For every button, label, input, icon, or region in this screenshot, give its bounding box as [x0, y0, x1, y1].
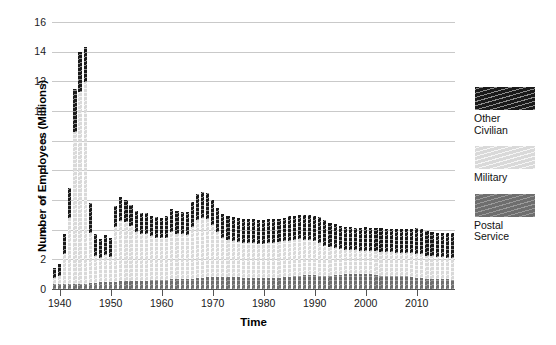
bar-segment: [109, 238, 112, 257]
bar-segment: [58, 264, 61, 277]
bar-segment: [385, 276, 388, 289]
bar-stack: [68, 188, 71, 289]
bar-segment: [94, 234, 97, 256]
bar-segment: [288, 241, 291, 277]
bar-segment: [175, 211, 178, 234]
bar-segment: [364, 274, 367, 289]
bar-segment: [328, 247, 331, 276]
bar-stack: [374, 228, 377, 289]
bar-segment: [405, 229, 408, 253]
bar-segment: [181, 212, 184, 235]
bar-stack: [425, 231, 428, 289]
bar-segment: [323, 220, 326, 246]
bar-stack: [390, 229, 393, 289]
bar-segment: [339, 275, 342, 289]
bar-stack: [84, 47, 87, 289]
hatched-lightgray-swatch: [474, 145, 536, 170]
bar-segment: [308, 240, 311, 276]
bar-segment: [436, 233, 439, 257]
bar-segment: [186, 235, 189, 279]
bar-segment: [436, 279, 439, 289]
bar-segment: [390, 229, 393, 253]
bar-stack: [53, 268, 56, 289]
x-axis-tick-labels: 19401950196019701980199020002010: [52, 297, 455, 313]
bar-segment: [288, 216, 291, 241]
bar-segment: [73, 89, 76, 132]
bar-segment: [420, 278, 423, 289]
bar-segment: [318, 276, 321, 289]
bar-segment: [349, 250, 352, 274]
bar-segment: [420, 254, 423, 278]
bar-segment: [216, 277, 219, 289]
bar-segment: [135, 281, 138, 289]
bar-stack: [242, 219, 245, 289]
bar-stack: [277, 219, 280, 289]
bar-segment: [237, 218, 240, 242]
bar-segment: [318, 217, 321, 243]
bar-segment: [262, 244, 265, 278]
y-tick-label: 12: [20, 76, 46, 87]
legend-entry[interactable]: Postal Service: [474, 193, 554, 243]
legend-entry[interactable]: Other Civilian: [474, 86, 554, 136]
bar-segment: [191, 227, 194, 279]
bar-segment: [293, 276, 296, 289]
bar-stack: [119, 197, 122, 289]
bar-segment: [242, 243, 245, 278]
x-tick-label: 2000: [346, 297, 386, 309]
y-tick-label: 16: [20, 17, 46, 28]
bar-stack: [405, 229, 408, 289]
x-tick-label: 2010: [397, 297, 437, 309]
bar-segment: [374, 251, 377, 275]
bar-stack: [181, 212, 184, 289]
bar-segment: [349, 227, 352, 250]
bar-segment: [400, 276, 403, 289]
bar-chart: Number of Employees (Millions) 024608101…: [0, 0, 556, 345]
bar-segment: [349, 274, 352, 289]
bar-segment: [323, 276, 326, 289]
bar-segment: [247, 278, 250, 289]
bar-segment: [390, 252, 393, 275]
bar-stack: [441, 233, 444, 289]
bar-stack: [385, 229, 388, 289]
bar-segment: [170, 209, 173, 232]
bar-segment: [267, 278, 270, 289]
bar-segment: [293, 240, 296, 276]
bar-segment: [369, 274, 372, 289]
bar-segment: [150, 216, 153, 237]
bar-segment: [175, 234, 178, 279]
bar-segment: [196, 278, 199, 289]
bar-stack: [379, 228, 382, 289]
bar-segment: [226, 277, 229, 289]
bars-layer: [52, 22, 455, 289]
bar-segment: [186, 212, 189, 235]
bar-segment: [221, 214, 224, 238]
bar-segment: [99, 258, 102, 282]
bar-segment: [308, 275, 311, 289]
bar-segment: [298, 215, 301, 239]
bar-segment: [63, 234, 66, 253]
legend-entry[interactable]: Military: [474, 145, 554, 184]
bar-segment: [160, 280, 163, 289]
bar-segment: [140, 281, 143, 289]
bar-segment: [374, 228, 377, 251]
bar-segment: [359, 251, 362, 274]
x-tick-label: 1950: [91, 297, 131, 309]
bar-stack: [170, 209, 173, 289]
bar-segment: [430, 256, 433, 279]
bar-segment: [364, 251, 367, 274]
bar-segment: [308, 215, 311, 240]
bar-segment: [226, 240, 229, 278]
bar-stack: [283, 218, 286, 289]
bar-segment: [257, 220, 260, 244]
bar-segment: [283, 241, 286, 277]
bar-stack: [262, 220, 265, 289]
bar-stack: [369, 228, 372, 289]
bar-segment: [262, 278, 265, 289]
bar-segment: [232, 217, 235, 241]
y-tick-label: 14: [20, 46, 46, 57]
bar-segment: [170, 279, 173, 289]
bar-stack: [140, 213, 143, 289]
bar-segment: [68, 218, 71, 283]
bar-segment: [150, 236, 153, 280]
bar-segment: [400, 253, 403, 276]
